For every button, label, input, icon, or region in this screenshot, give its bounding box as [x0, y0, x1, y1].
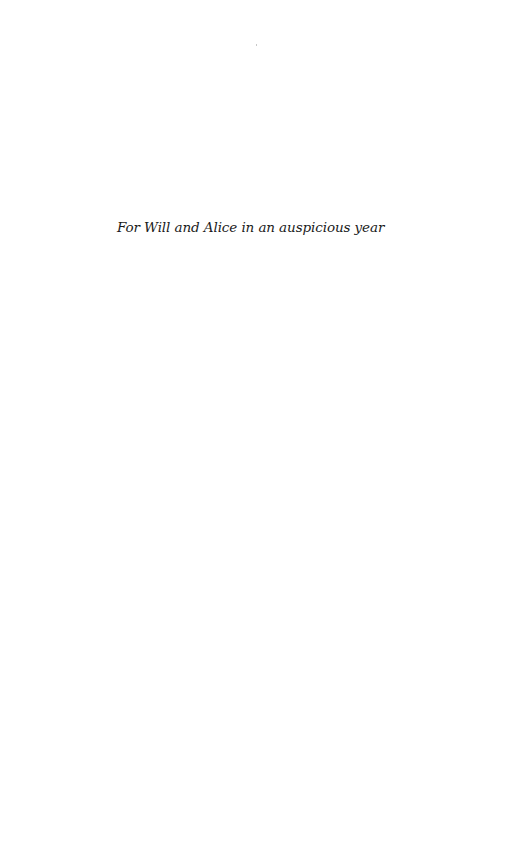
scan-speck	[256, 44, 257, 46]
book-page: For Will and Alice in an auspicious year	[0, 0, 505, 861]
dedication-text: For Will and Alice in an auspicious year	[117, 219, 384, 235]
